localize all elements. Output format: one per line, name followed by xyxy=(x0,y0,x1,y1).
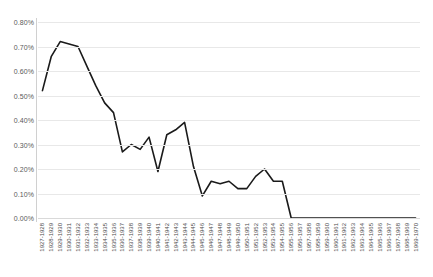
grid-line xyxy=(38,71,420,72)
x-axis-tick-label: 1963-1964 xyxy=(359,223,365,252)
x-axis-tick-label: 1936-1937 xyxy=(119,223,125,252)
y-axis-tick-label: 0.00% xyxy=(14,215,34,222)
x-axis-tick-label: 1967-1968 xyxy=(395,223,401,252)
x-axis-tick-label: 1945-1946 xyxy=(199,223,205,252)
x-axis-tick-label: 1947-1948 xyxy=(217,223,223,252)
x-axis-tick-label: 1932-1933 xyxy=(84,223,90,252)
y-axis-tick-label: 0.80% xyxy=(14,19,34,26)
x-axis-tick-label: 1940-1941 xyxy=(155,223,161,252)
y-axis-tick-label: 0.50% xyxy=(14,92,34,99)
x-axis: 1927-19281928-19291929-19301930-19311931… xyxy=(38,219,420,277)
x-axis-tick-label: 1969-1970 xyxy=(413,223,419,252)
x-axis-tick-label: 1935-1936 xyxy=(111,223,117,252)
x-axis-tick-label: 1959-1960 xyxy=(324,223,330,252)
y-axis-tick-label: 0.10% xyxy=(14,190,34,197)
x-axis-tick-label: 1933-1934 xyxy=(93,223,99,252)
x-axis-tick-label: 1966-1967 xyxy=(386,223,392,252)
x-axis-tick-label: 1934-1935 xyxy=(102,223,108,252)
x-axis-tick-label: 1929-1930 xyxy=(57,223,63,252)
x-axis-tick-label: 1968-1969 xyxy=(404,223,410,252)
series-path xyxy=(42,42,415,218)
y-axis-tick-label: 0.30% xyxy=(14,141,34,148)
x-axis-tick-label: 1927-1928 xyxy=(39,223,45,252)
x-axis-tick-label: 1958-1959 xyxy=(315,223,321,252)
x-axis-tick-label: 1938-1939 xyxy=(137,223,143,252)
y-axis-tick-label: 0.60% xyxy=(14,68,34,75)
x-axis-tick-label: 1941-1942 xyxy=(164,223,170,252)
x-axis-tick-label: 1928-1929 xyxy=(48,223,54,252)
y-axis-tick-label: 0.20% xyxy=(14,166,34,173)
x-axis-tick-label: 1942-1943 xyxy=(173,223,179,252)
x-axis-tick-label: 1956-1957 xyxy=(297,223,303,252)
grid-line xyxy=(38,120,420,121)
x-axis-tick-label: 1939-1940 xyxy=(146,223,152,252)
y-axis-tick-label: 0.70% xyxy=(14,43,34,50)
x-axis-tick-label: 1953-1954 xyxy=(270,223,276,252)
x-axis-tick-label: 1955-1956 xyxy=(288,223,294,252)
x-axis-tick-label: 1931-1932 xyxy=(75,223,81,252)
x-axis-tick-label: 1950-1951 xyxy=(244,223,250,252)
plot-area xyxy=(38,22,420,218)
x-axis-tick-label: 1951-1952 xyxy=(253,223,259,252)
grid-line xyxy=(38,169,420,170)
x-axis-tick-label: 1949-1950 xyxy=(235,223,241,252)
x-axis-tick-label: 1962-1963 xyxy=(350,223,356,252)
line-chart: 0.00%0.10%0.20%0.30%0.40%0.50%0.60%0.70%… xyxy=(0,0,433,277)
grid-line xyxy=(38,22,420,23)
x-axis-tick-label: 1948-1949 xyxy=(226,223,232,252)
x-axis-tick-label: 1957-1958 xyxy=(306,223,312,252)
y-axis-tick-label: 0.40% xyxy=(14,117,34,124)
grid-line xyxy=(38,47,420,48)
x-axis-tick-label: 1965-1966 xyxy=(377,223,383,252)
x-axis-tick-label: 1960-1961 xyxy=(333,223,339,252)
grid-line xyxy=(38,194,420,195)
grid-line xyxy=(38,96,420,97)
x-axis-tick-label: 1946-1947 xyxy=(208,223,214,252)
x-axis-tick-label: 1952-1953 xyxy=(262,223,268,252)
y-axis: 0.00%0.10%0.20%0.30%0.40%0.50%0.60%0.70%… xyxy=(0,0,38,277)
x-axis-tick-label: 1964-1965 xyxy=(368,223,374,252)
x-axis-tick-label: 1937-1938 xyxy=(128,223,134,252)
grid-line xyxy=(38,145,420,146)
x-axis-tick-label: 1943-1944 xyxy=(182,223,188,252)
x-axis-tick-label: 1944-1945 xyxy=(190,223,196,252)
x-axis-tick-label: 1954-1955 xyxy=(279,223,285,252)
x-axis-tick-label: 1961-1962 xyxy=(341,223,347,252)
x-axis-tick-label: 1930-1931 xyxy=(66,223,72,252)
